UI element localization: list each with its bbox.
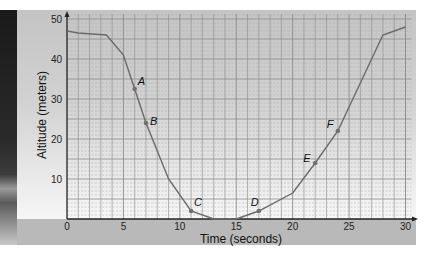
x-tick-label: 10: [174, 221, 186, 232]
grid: [67, 14, 412, 219]
y-tick-label: 30: [51, 94, 63, 105]
altitude-chart: 0510152025301020304050 ABCDEF Time (seco…: [0, 0, 438, 255]
point-label: D: [251, 196, 259, 208]
point-d: D: [251, 196, 261, 213]
y-tick-label: 10: [51, 174, 63, 185]
x-tick-label: 5: [121, 221, 127, 232]
point-marker-icon: [313, 161, 318, 166]
y-axis-label: Altitude (meters): [35, 71, 49, 159]
y-tick-label: 20: [51, 134, 63, 145]
x-axis-label: Time (seconds): [200, 232, 282, 246]
x-tick-label: 25: [344, 221, 356, 232]
x-tick-label: 30: [400, 221, 412, 232]
point-label: A: [137, 75, 145, 87]
y-axis-arrow-icon: [65, 11, 70, 17]
x-tick-label: 15: [231, 221, 243, 232]
point-marker-icon: [257, 209, 262, 214]
point-marker-icon: [144, 121, 149, 126]
point-marker-icon: [189, 209, 194, 214]
point-marker-icon: [336, 129, 341, 134]
point-label: F: [327, 118, 335, 130]
y-tick-label: 40: [51, 54, 63, 65]
point-label: B: [150, 115, 157, 127]
x-axis-arrow-icon: [412, 217, 418, 222]
point-c: C: [189, 196, 202, 213]
point-label: C: [194, 196, 202, 208]
x-tick-label: 20: [287, 221, 299, 232]
y-tick-label: 50: [51, 14, 63, 25]
point-label: E: [303, 152, 311, 164]
point-marker-icon: [132, 87, 137, 92]
axes: [65, 11, 419, 222]
x-tick-label: 0: [64, 221, 70, 232]
